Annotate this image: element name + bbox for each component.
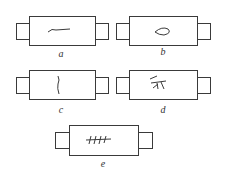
crack-longitudinal-icon	[48, 29, 70, 32]
label-a: a	[51, 48, 71, 59]
specimen-e	[56, 126, 153, 156]
label-d: d	[153, 104, 173, 115]
specimen-a	[17, 17, 109, 46]
crack-multiple-icon	[86, 136, 111, 144]
label-c: c	[51, 104, 71, 115]
label-e: e	[93, 158, 113, 169]
crack-loop-icon	[155, 28, 169, 35]
specimen-c	[17, 71, 109, 100]
specimen-b	[117, 17, 211, 46]
crack-branched-icon	[150, 76, 166, 89]
crack-transverse-icon	[58, 76, 59, 94]
label-b: b	[153, 46, 173, 57]
specimen-diagram	[0, 0, 228, 177]
specimen-d	[117, 71, 211, 100]
